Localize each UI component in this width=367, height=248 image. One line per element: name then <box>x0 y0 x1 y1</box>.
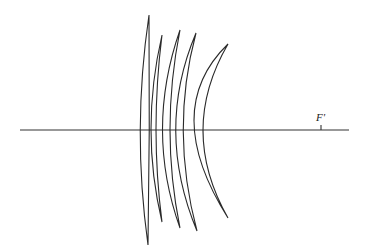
lens-element-3 <box>163 30 181 228</box>
lens-element-2 <box>151 35 162 222</box>
lens-diagram: F' <box>0 0 367 248</box>
lens-element-4 <box>176 33 197 231</box>
lens-element-5 <box>194 44 228 218</box>
focal-point-label: F' <box>315 111 326 123</box>
